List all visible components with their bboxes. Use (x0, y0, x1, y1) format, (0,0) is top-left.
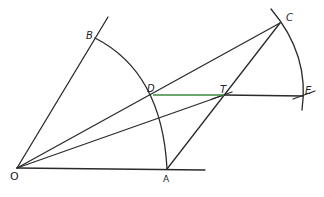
label-T: T (220, 84, 227, 95)
label-C: C (286, 12, 293, 23)
ray-OA (17, 168, 205, 170)
arc-CE (271, 9, 303, 110)
label-D: D (147, 83, 155, 94)
label-O: O (10, 170, 19, 183)
segment-TE (224, 95, 303, 96)
label-A: A (163, 174, 170, 184)
construction-canvas: O A B C D T E (0, 0, 324, 197)
label-B: B (86, 30, 93, 41)
label-E: E (305, 85, 312, 96)
segment-OT (17, 95, 224, 168)
geometry-diagram: O A B C D T E (0, 0, 324, 197)
arc-BA (95, 38, 167, 169)
ray-OB (17, 17, 108, 168)
